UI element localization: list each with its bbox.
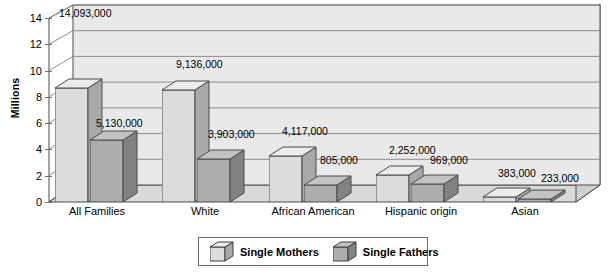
legend-label-single-mothers: Single Mothers — [240, 246, 319, 258]
bar-white-mothers — [162, 0, 195, 202]
chart-container: 14 12 10 8 6 4 2 0 Millions — [0, 0, 614, 274]
y-tick-label: 12 — [20, 39, 42, 49]
bar-hispanic-origin-fathers — [411, 0, 444, 202]
y-tick-mark — [45, 44, 52, 45]
bar-all-families-fathers — [90, 0, 123, 202]
y-tick-label: 10 — [20, 66, 42, 76]
y-tick-label: 8 — [20, 92, 42, 102]
bar-african-american-fathers — [304, 0, 337, 202]
legend: Single Mothers Single Fathers — [198, 237, 428, 266]
legend-cube-icon — [333, 241, 357, 262]
y-axis-title: Millions — [9, 63, 21, 133]
x-label-hispanic-origin: Hispanic origin — [356, 205, 486, 218]
y-tick-mark — [45, 202, 52, 203]
plot-area: 14 12 10 8 6 4 2 0 Millions — [0, 0, 614, 230]
value-label-hispanic-origin-mothers: 2,252,000 — [389, 145, 436, 156]
bar-african-american-mothers — [269, 0, 302, 202]
value-label-african-american-fathers: 805,000 — [320, 155, 358, 166]
y-tick-mark — [45, 18, 52, 19]
y-tick-mark — [45, 123, 52, 124]
y-tick-mark — [45, 176, 52, 177]
x-label-white: White — [150, 205, 260, 218]
value-label-all-families-mothers: 14,093,000 — [59, 8, 112, 19]
value-label-hispanic-origin-fathers: 969,000 — [430, 155, 468, 166]
bar-hispanic-origin-mothers — [376, 0, 409, 202]
y-tick-label: 0 — [20, 197, 42, 207]
value-label-african-american-mothers: 4,117,000 — [282, 126, 328, 137]
x-label-all-families: All Families — [42, 205, 152, 218]
y-tick-mark — [45, 71, 52, 72]
value-label-all-families-fathers: 5,130,000 — [96, 118, 143, 129]
value-label-white-fathers: 3,903,000 — [208, 129, 255, 140]
y-tick-label: 2 — [20, 171, 42, 181]
bar-all-families-mothers — [55, 0, 88, 202]
legend-item-single-fathers: Single Fathers — [333, 241, 439, 262]
value-label-asian-fathers: 233,000 — [541, 173, 579, 184]
y-tick-label: 6 — [20, 118, 42, 128]
y-tick-label: 14 — [20, 13, 42, 23]
legend-item-single-mothers: Single Mothers — [210, 241, 319, 262]
y-tick-mark — [45, 149, 52, 150]
value-label-white-mothers: 9,136,000 — [176, 59, 223, 70]
bar-white-fathers — [197, 0, 230, 202]
x-label-asian: Asian — [470, 205, 580, 218]
y-tick-label: 4 — [20, 144, 42, 154]
legend-cube-icon — [210, 241, 234, 262]
value-label-asian-mothers: 383,000 — [498, 168, 536, 179]
y-tick-mark — [45, 97, 52, 98]
legend-label-single-fathers: Single Fathers — [363, 246, 439, 258]
